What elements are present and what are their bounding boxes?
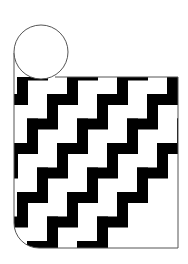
band-step: [117, 45, 148, 81]
band-step: [0, 217, 8, 253]
band-step: [177, 94, 188, 130]
band-step: [167, 45, 188, 81]
band-step: [187, 21, 188, 57]
shield-figure: [0, 0, 188, 264]
roundel-charge: [14, 25, 68, 79]
band-step: [67, 45, 98, 81]
band-step: [137, 21, 168, 57]
band-step: [87, 21, 118, 57]
band-step: [0, 143, 18, 179]
band-step: [0, 94, 8, 130]
